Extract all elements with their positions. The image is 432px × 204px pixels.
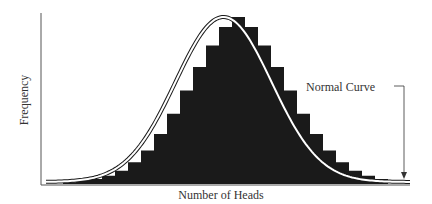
histogram-area (63, 17, 388, 184)
normal-curve-annotation: Normal Curve (306, 80, 375, 95)
y-axis-label: Frequency (4, 70, 44, 130)
annotation-arrow-head (401, 172, 407, 179)
histogram-chart (0, 0, 432, 204)
y-axis-label-text: Frequency (17, 75, 32, 126)
histogram-bars (63, 17, 388, 184)
x-axis-label: Number of Heads (0, 188, 432, 203)
annotation-arrow-line (394, 86, 404, 176)
